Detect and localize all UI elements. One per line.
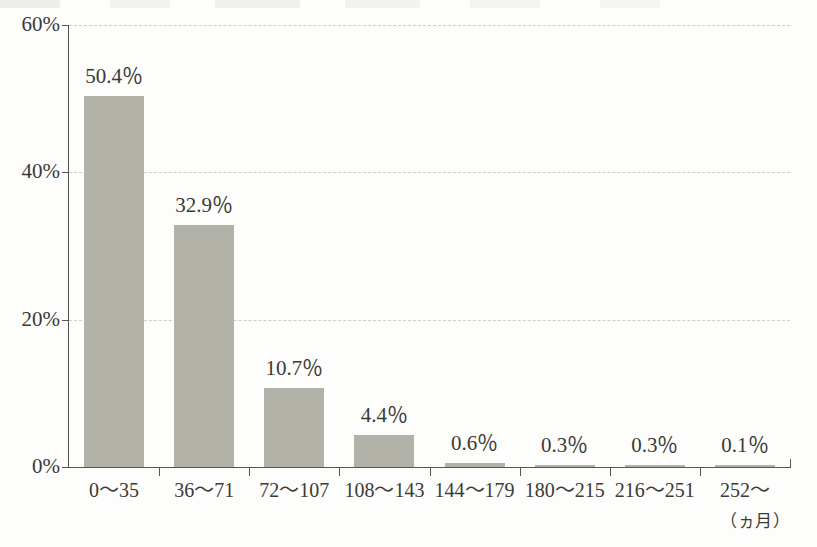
y-tick-mark bbox=[62, 172, 69, 173]
x-axis-unit-label: （ヵ月） bbox=[720, 512, 790, 532]
bar bbox=[445, 463, 505, 467]
plot-area bbox=[69, 25, 790, 467]
y-tick-label: 60% bbox=[0, 14, 60, 35]
bar bbox=[354, 435, 414, 467]
x-tick-mark bbox=[249, 468, 250, 476]
bar bbox=[715, 465, 775, 468]
bar bbox=[84, 96, 144, 467]
y-tick-mark bbox=[62, 25, 69, 26]
bar-chart: 0%20%40%60% 50.4％32.9％10.7％4.4％0.6％0.3％0… bbox=[0, 0, 817, 547]
y-tick-label: 0% bbox=[0, 456, 60, 477]
y-tick-mark bbox=[62, 467, 69, 468]
scan-artifact-strip bbox=[0, 0, 817, 8]
x-tick-mark bbox=[159, 468, 160, 476]
x-tick-label: 252〜 bbox=[690, 478, 800, 502]
bar bbox=[264, 388, 324, 467]
bar-value-label: 4.4％ bbox=[329, 405, 439, 426]
y-tick-mark bbox=[62, 320, 69, 321]
bar-value-label: 10.7％ bbox=[239, 358, 349, 379]
bar-value-label: 32.9％ bbox=[149, 195, 259, 216]
x-tick-mark bbox=[610, 468, 611, 476]
x-tick-mark bbox=[520, 468, 521, 476]
bar-value-label: 50.4％ bbox=[59, 66, 169, 87]
bar bbox=[625, 465, 685, 468]
x-tick-mark bbox=[339, 468, 340, 476]
bar bbox=[535, 465, 595, 468]
bar bbox=[174, 225, 234, 467]
y-tick-label: 20% bbox=[0, 309, 60, 330]
x-tick-mark bbox=[790, 459, 791, 468]
bar-value-label: 0.1％ bbox=[690, 435, 800, 456]
y-tick-label: 40% bbox=[0, 161, 60, 182]
x-tick-mark bbox=[700, 468, 701, 476]
x-tick-mark bbox=[430, 468, 431, 476]
